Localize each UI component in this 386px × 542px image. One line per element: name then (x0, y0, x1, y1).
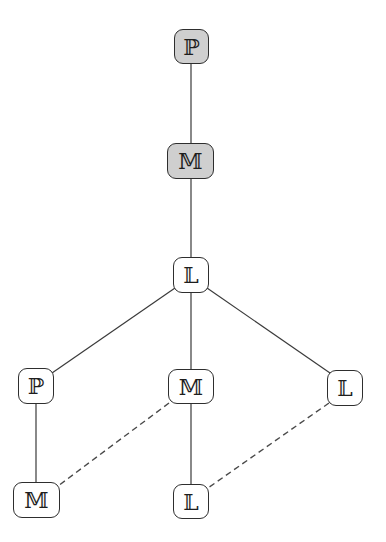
node-m-middle: 𝕄 (168, 369, 214, 404)
node-label: ℙ (28, 376, 45, 398)
node-m-bottom-left: 𝕄 (13, 482, 60, 518)
node-l-right: 𝕃 (327, 370, 363, 406)
node-label: 𝕄 (24, 490, 48, 512)
node-label: 𝕃 (183, 265, 198, 287)
edge-l-top-to-p-left (52, 288, 175, 373)
node-label: 𝕃 (183, 492, 198, 514)
node-m-top: 𝕄 (167, 143, 214, 179)
node-p-top: ℙ (174, 29, 209, 64)
node-l-center: 𝕃 (173, 257, 209, 293)
node-label: 𝕄 (178, 151, 202, 173)
edge-dashed-l-right-to-l-bottom (208, 403, 329, 488)
node-label: 𝕃 (337, 378, 352, 400)
edge-dashed-m-mid-to-m-bottom (58, 403, 169, 486)
edge-l-top-to-l-right (207, 288, 330, 373)
node-l-bottom: 𝕃 (173, 484, 209, 519)
node-label: 𝕄 (179, 377, 203, 399)
node-label: ℙ (183, 37, 200, 59)
node-p-left: ℙ (18, 368, 54, 404)
